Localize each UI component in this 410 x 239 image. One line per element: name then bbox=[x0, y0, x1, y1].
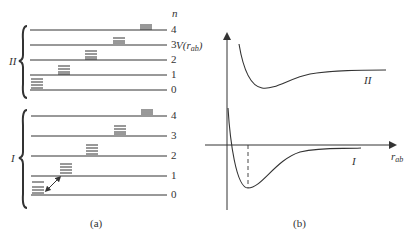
brace-ii bbox=[19, 26, 27, 98]
level-label: 0 bbox=[171, 188, 177, 200]
level-label: 0 bbox=[171, 83, 177, 95]
sublevels-n2 bbox=[85, 51, 97, 59]
sublevels-n3 bbox=[113, 38, 125, 43]
level-label: 4 bbox=[171, 23, 177, 35]
brace-i bbox=[19, 110, 27, 208]
x-axis-label: rab bbox=[391, 150, 403, 164]
n-label: n bbox=[172, 7, 178, 19]
group-i: I 4 3 2 1 0 bbox=[10, 109, 177, 208]
level-label: 4 bbox=[171, 109, 177, 121]
y-axis-label: V(rab) bbox=[176, 39, 203, 53]
sublevels-n4 bbox=[141, 110, 153, 114]
curve-ii-label: II bbox=[363, 74, 373, 86]
curve-i-label: I bbox=[351, 155, 357, 167]
caption-a: (a) bbox=[90, 217, 103, 230]
level-label: 1 bbox=[171, 169, 177, 181]
sublevels-n1 bbox=[58, 66, 70, 74]
diagram-canvas: n II 4 3 2 1 0 bbox=[0, 0, 410, 239]
sublevels-n3 bbox=[114, 126, 126, 134]
caption-b: (b) bbox=[293, 217, 306, 230]
group-i-label: I bbox=[10, 152, 16, 164]
sublevels-n0 bbox=[31, 79, 43, 88]
panel-b: V(rab) rab II I (b) bbox=[176, 36, 403, 230]
level-label: 2 bbox=[171, 149, 177, 161]
level-label: 3 bbox=[171, 129, 177, 141]
group-ii: II 4 3 2 1 0 bbox=[8, 23, 177, 98]
level-label: 1 bbox=[171, 68, 177, 80]
level-label: 2 bbox=[171, 53, 177, 65]
transition-arrow bbox=[47, 178, 59, 190]
sublevels-n4 bbox=[140, 25, 152, 29]
group-ii-label: II bbox=[8, 55, 18, 67]
sublevels-n0 bbox=[32, 182, 44, 193]
sublevels-n1 bbox=[60, 164, 72, 173]
sublevels-n2 bbox=[86, 145, 98, 154]
panel-a: n II 4 3 2 1 0 bbox=[8, 7, 178, 230]
